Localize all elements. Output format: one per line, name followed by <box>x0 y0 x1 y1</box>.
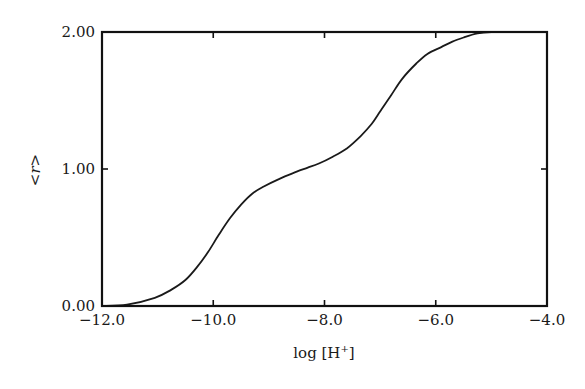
x-axis-tick-labels: −12.0−10.0−8.0−6.0−4.0 <box>79 311 565 329</box>
plot-frame <box>102 32 547 306</box>
x-tick-label: −10.0 <box>190 311 236 329</box>
y-axis-tick-labels: 0.001.002.00 <box>62 23 95 315</box>
y-tick-label: 1.00 <box>62 160 95 178</box>
y-tick-label: 2.00 <box>62 23 95 41</box>
chart: −12.0−10.0−8.0−6.0−4.0 0.001.002.00 log … <box>0 0 585 389</box>
x-axis-label-sup: + <box>340 343 348 354</box>
x-axis-label-close: ] <box>349 344 355 362</box>
x-axis-label-base: log [H <box>293 344 340 362</box>
x-axis-label: log [H+] <box>293 343 354 362</box>
x-tick-label: −6.0 <box>418 311 454 329</box>
y-axis-label: <r> <box>26 154 44 186</box>
series-line-0 <box>102 32 525 306</box>
x-tick-label: −4.0 <box>529 311 565 329</box>
axis-ticks <box>102 32 547 306</box>
data-curve <box>102 32 525 306</box>
x-tick-label: −8.0 <box>306 311 342 329</box>
y-tick-label: 0.00 <box>62 297 95 315</box>
